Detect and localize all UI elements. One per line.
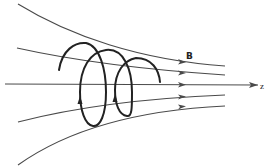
field-label-b: B <box>186 51 193 61</box>
diagram-canvas: B z <box>0 0 269 168</box>
helix-direction-arrows <box>78 94 118 104</box>
arrow-icon <box>78 96 83 104</box>
arrow-icon <box>178 95 186 100</box>
arrow-icon <box>113 94 118 102</box>
field-line-upper <box>17 48 225 75</box>
axis-label-z: z <box>260 81 264 91</box>
